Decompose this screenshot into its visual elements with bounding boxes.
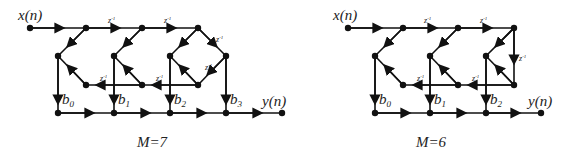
- delay-label: z-1: [163, 16, 171, 25]
- fir-structure-m6: x(n) y(n) z-1 z-1 z-1 z-1 z-1 b0 b1 b2 M…: [332, 7, 552, 150]
- fir-structure-m7: x(n) y(n) z-1 z-1 z-1 z-1 z-1 z-1 b0 b1 …: [17, 7, 286, 150]
- output-label: y(n): [260, 93, 286, 110]
- delay-label: z-1: [479, 16, 487, 25]
- coefficient-b0: b0: [379, 91, 392, 109]
- figure-caption: M=7: [136, 134, 169, 150]
- coefficient-b1: b1: [434, 91, 446, 109]
- signal-flow-diagrams: x(n) y(n) z-1 z-1 z-1 z-1 z-1 z-1 b0 b1 …: [0, 0, 572, 158]
- coefficient-b3: b3: [230, 91, 243, 109]
- coefficient-b2: b2: [174, 91, 187, 109]
- output-label: y(n): [526, 93, 552, 110]
- input-label: x(n): [332, 7, 357, 24]
- delay-label: z-1: [423, 16, 431, 25]
- coefficient-b2: b2: [490, 91, 503, 109]
- delay-label: z-1: [518, 54, 526, 63]
- delay-label: z-1: [471, 74, 479, 83]
- coefficient-b0: b0: [62, 91, 75, 109]
- delay-label: z-1: [99, 74, 107, 83]
- delay-label: z-1: [215, 35, 223, 44]
- figure-caption: M=6: [415, 134, 447, 150]
- delay-label: z-1: [107, 16, 115, 25]
- delay-label: z-1: [416, 74, 424, 83]
- input-label: x(n): [17, 7, 42, 24]
- coefficient-b1: b1: [118, 91, 130, 109]
- delay-label: z-1: [155, 74, 163, 83]
